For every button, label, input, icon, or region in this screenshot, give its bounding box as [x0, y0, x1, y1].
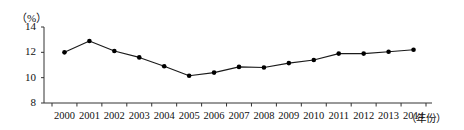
y-axis-tick-label: 8	[16, 96, 36, 108]
data-point-markers	[62, 39, 416, 78]
data-point-marker	[237, 65, 242, 70]
data-point-marker	[336, 51, 341, 56]
data-point-marker	[187, 73, 192, 78]
data-point-marker	[112, 49, 117, 54]
data-point-marker	[287, 61, 292, 66]
data-point-marker	[386, 49, 391, 54]
data-point-marker	[162, 64, 167, 69]
data-point-marker	[312, 58, 317, 63]
line-chart-figure: （%） 8101214 2000200120022003200420052006…	[0, 0, 464, 130]
data-point-marker	[62, 50, 67, 55]
y-axis-tick-label: 14	[16, 20, 36, 32]
data-point-marker	[212, 70, 217, 75]
data-point-marker	[137, 55, 142, 60]
data-series-line	[64, 41, 413, 76]
x-axis-title: （年份）	[406, 110, 446, 125]
data-point-marker	[361, 51, 366, 56]
data-point-marker	[262, 65, 267, 70]
data-point-marker	[411, 48, 416, 53]
x-axis-ticks	[52, 103, 426, 107]
y-axis-tick-label: 12	[16, 45, 36, 57]
y-axis-tick-label: 10	[16, 71, 36, 83]
data-point-marker	[87, 39, 92, 44]
